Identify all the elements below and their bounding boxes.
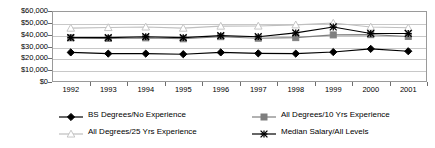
legend-item-label: Median Salary/All Levels bbox=[277, 127, 369, 137]
legend-item-all-degrees-25-yrs-experience[interactable]: All Degrees/25 Yrs Experience bbox=[58, 123, 248, 140]
legend-item-bs-degrees-no-experience[interactable]: BS Degrees/No Experience bbox=[58, 106, 248, 123]
diamond-filled-marker-icon bbox=[58, 109, 84, 121]
salary-trend-line-chart: $0$10,000$20,000$30,000$40,000$50,000$60… bbox=[0, 0, 435, 148]
data-series bbox=[68, 32, 412, 42]
legend-item-label: All Degrees/10 Yrs Experience bbox=[277, 110, 390, 120]
legend-item-median-salary-all-levels[interactable]: Median Salary/All Levels bbox=[251, 123, 431, 140]
triangle-open-marker-icon bbox=[58, 126, 84, 138]
legend-item-all-degrees-10-yrs-experience[interactable]: All Degrees/10 Yrs Experience bbox=[251, 106, 431, 123]
data-series bbox=[67, 19, 412, 31]
star-x-marker-icon bbox=[251, 126, 277, 138]
legend-item-label: All Degrees/25 Yrs Experience bbox=[84, 127, 197, 137]
chart-legend: BS Degrees/No Experience All Degrees/10 … bbox=[46, 106, 426, 144]
legend-item-label: BS Degrees/No Experience bbox=[84, 110, 186, 120]
data-series bbox=[67, 45, 412, 58]
square-filled-marker-icon bbox=[251, 109, 277, 121]
